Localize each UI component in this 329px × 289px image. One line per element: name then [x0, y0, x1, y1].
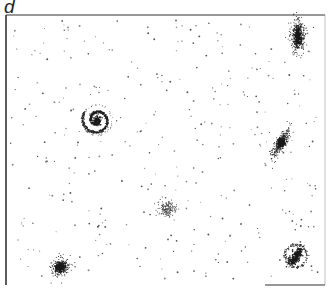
elliptical-galaxy-round [49, 253, 75, 284]
galaxies [49, 12, 309, 284]
diffuse-cluster [154, 197, 179, 221]
edge-on-galaxy [265, 121, 294, 169]
barred-spiral-galaxy [283, 243, 310, 269]
elliptical-galaxy-elongated [285, 12, 308, 58]
galaxy-field [0, 0, 329, 289]
